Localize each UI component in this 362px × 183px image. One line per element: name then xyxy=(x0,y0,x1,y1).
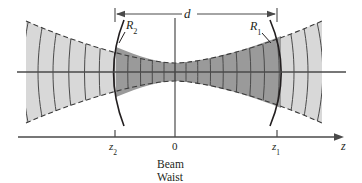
figure-canvas xyxy=(0,0,362,183)
distance-label: d xyxy=(184,7,191,20)
leader-lines xyxy=(119,32,271,43)
caption-line-2: Waist xyxy=(157,172,183,183)
z-axis-label: z xyxy=(341,140,346,152)
mirror-right-radius-label: R1 xyxy=(250,20,261,36)
mirror-left-radius-subscript: 2 xyxy=(133,27,137,36)
mirror-right-radius-subscript: 1 xyxy=(257,28,261,37)
z-axis xyxy=(18,130,344,141)
z1-tick-label: z1 xyxy=(272,141,280,155)
mirror-left-radius-label: R2 xyxy=(126,19,137,35)
origin-tick-label: 0 xyxy=(172,141,178,152)
z2-tick-label: z2 xyxy=(109,141,117,155)
caption-line-1: Beam xyxy=(157,159,184,171)
z2-subscript: 2 xyxy=(113,148,117,157)
z1-subscript: 1 xyxy=(276,148,280,157)
beam-waist-figure: d R2 R1 z2 0 z1 z Beam Waist xyxy=(0,0,362,183)
